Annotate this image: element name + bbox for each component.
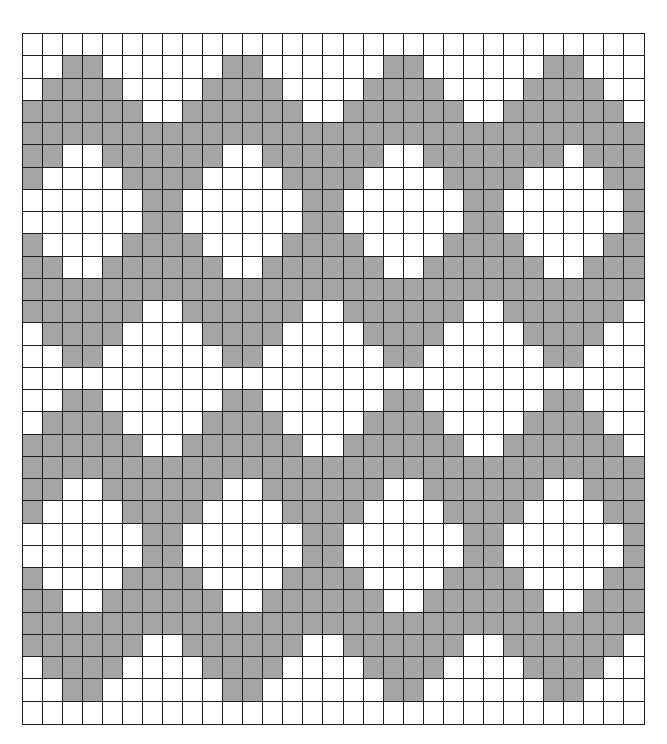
- grid-cell-empty: [223, 501, 243, 523]
- grid-cell-empty: [303, 435, 323, 457]
- grid-cell-filled: [484, 145, 504, 167]
- grid-cell-empty: [584, 368, 604, 390]
- grid-cell-filled: [63, 101, 83, 123]
- grid-cell-filled: [444, 145, 464, 167]
- grid-cell-filled: [283, 435, 303, 457]
- grid-cell-empty: [103, 546, 123, 568]
- grid-cell-empty: [63, 257, 83, 279]
- grid-cell-empty: [23, 412, 43, 434]
- grid-cell-empty: [83, 479, 103, 501]
- grid-cell-empty: [344, 34, 364, 56]
- grid-cell-filled: [143, 590, 163, 612]
- grid-cell-empty: [243, 257, 263, 279]
- grid-cell-filled: [624, 123, 644, 145]
- grid-cell-filled: [404, 613, 424, 635]
- grid-cell-empty: [203, 702, 223, 724]
- grid-cell-filled: [223, 657, 243, 679]
- grid-cell-filled: [303, 123, 323, 145]
- grid-cell-filled: [223, 390, 243, 412]
- grid-cell-empty: [604, 524, 624, 546]
- grid-cell-empty: [163, 323, 183, 345]
- grid-cell-filled: [364, 435, 384, 457]
- grid-cell-empty: [564, 168, 584, 190]
- grid-cell-filled: [384, 301, 404, 323]
- grid-cell-empty: [283, 323, 303, 345]
- grid-cell-filled: [504, 101, 524, 123]
- grid-cell-empty: [103, 390, 123, 412]
- grid-cell-empty: [464, 346, 484, 368]
- grid-cell-filled: [524, 257, 544, 279]
- grid-cell-filled: [223, 279, 243, 301]
- grid-cell-filled: [464, 212, 484, 234]
- grid-cell-empty: [564, 34, 584, 56]
- grid-cell-empty: [404, 524, 424, 546]
- grid-cell-empty: [564, 368, 584, 390]
- grid-cell-filled: [544, 435, 564, 457]
- grid-cell-filled: [424, 279, 444, 301]
- grid-cell-empty: [323, 368, 343, 390]
- grid-cell-filled: [604, 590, 624, 612]
- grid-cell-filled: [564, 435, 584, 457]
- grid-cell-filled: [424, 590, 444, 612]
- grid-cell-empty: [63, 368, 83, 390]
- grid-cell-filled: [83, 390, 103, 412]
- grid-cell-filled: [544, 279, 564, 301]
- grid-cell-empty: [424, 679, 444, 701]
- grid-cell-filled: [23, 234, 43, 256]
- grid-cell-filled: [404, 657, 424, 679]
- grid-cell-filled: [103, 79, 123, 101]
- grid-cell-filled: [424, 613, 444, 635]
- grid-cell-empty: [43, 190, 63, 212]
- grid-cell-empty: [63, 479, 83, 501]
- grid-cell-empty: [544, 546, 564, 568]
- grid-cell-empty: [564, 145, 584, 167]
- grid-cell-filled: [564, 613, 584, 635]
- grid-cell-empty: [484, 635, 504, 657]
- grid-cell-filled: [604, 501, 624, 523]
- grid-cell-empty: [524, 501, 544, 523]
- grid-cell-filled: [203, 457, 223, 479]
- grid-cell-filled: [604, 234, 624, 256]
- grid-cell-empty: [544, 257, 564, 279]
- grid-cell-empty: [243, 702, 263, 724]
- grid-cell-filled: [544, 323, 564, 345]
- grid-cell-empty: [364, 168, 384, 190]
- grid-cell-filled: [303, 613, 323, 635]
- grid-cell-filled: [464, 234, 484, 256]
- grid-cell-empty: [444, 679, 464, 701]
- grid-cell-filled: [344, 257, 364, 279]
- grid-cell-filled: [283, 568, 303, 590]
- grid-cell-filled: [504, 279, 524, 301]
- grid-cell-filled: [203, 412, 223, 434]
- grid-cell-empty: [544, 568, 564, 590]
- grid-cell-empty: [223, 212, 243, 234]
- grid-cell-empty: [584, 168, 604, 190]
- grid-cell-filled: [283, 145, 303, 167]
- grid-cell-empty: [223, 257, 243, 279]
- grid-cell-filled: [103, 435, 123, 457]
- grid-cell-filled: [604, 457, 624, 479]
- grid-cell-filled: [424, 145, 444, 167]
- grid-cell-empty: [203, 568, 223, 590]
- grid-cell-empty: [344, 679, 364, 701]
- grid-cell-filled: [584, 435, 604, 457]
- grid-cell-empty: [303, 79, 323, 101]
- grid-cell-empty: [183, 390, 203, 412]
- grid-cell-empty: [424, 346, 444, 368]
- grid-cell-empty: [624, 368, 644, 390]
- grid-cell-filled: [404, 323, 424, 345]
- grid-cell-empty: [404, 479, 424, 501]
- grid-cell-filled: [484, 279, 504, 301]
- grid-cell-empty: [444, 346, 464, 368]
- grid-cell-filled: [83, 435, 103, 457]
- grid-cell-filled: [323, 546, 343, 568]
- grid-cell-empty: [63, 546, 83, 568]
- grid-cell-filled: [444, 568, 464, 590]
- grid-cell-filled: [524, 279, 544, 301]
- grid-cell-empty: [163, 34, 183, 56]
- grid-cell-filled: [243, 301, 263, 323]
- grid-cell-empty: [584, 546, 604, 568]
- grid-cell-filled: [384, 279, 404, 301]
- grid-cell-filled: [303, 479, 323, 501]
- grid-cell-empty: [43, 346, 63, 368]
